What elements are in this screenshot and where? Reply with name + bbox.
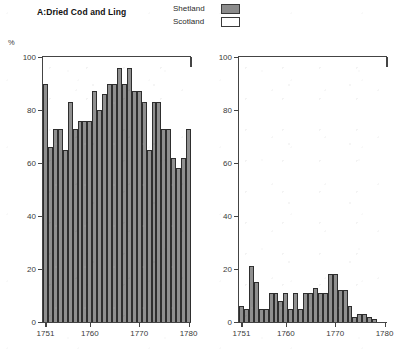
panel-b-y-tick-label: 0 <box>228 318 232 327</box>
bar <box>186 129 191 322</box>
panel-a-x-tick-label: 1760 <box>81 329 99 338</box>
panel-a-title: A:Dried Cod and Ling <box>37 7 126 17</box>
panel-a-y-tick-label: 60 <box>27 159 36 168</box>
panel-b-y-tick <box>234 57 239 58</box>
panel-a-x-tick <box>90 322 91 327</box>
panel-a-y-tick-label: 40 <box>27 212 36 221</box>
panel-b-y-tick-label: 60 <box>223 159 232 168</box>
panel-b-bars <box>239 57 387 322</box>
panel-b-x-tick-label: 1760 <box>277 329 295 338</box>
panel-a-x-tick <box>189 322 190 327</box>
panel-b-x-tick-label: 1751 <box>233 329 251 338</box>
panel-a-x-tick <box>45 322 46 327</box>
panel-a-y-tick <box>38 269 43 270</box>
panel-a-y-tick <box>38 216 43 217</box>
panel-a-y-tick <box>38 110 43 111</box>
panel-a-y-tick-label: 80 <box>27 106 36 115</box>
panel-b-y-tick <box>234 110 239 111</box>
panel-a-y-tick-label: 0 <box>32 318 36 327</box>
panel-b-y-tick-label: 80 <box>223 106 232 115</box>
panel-dried-cod-and-ling: A:Dried Cod and Ling % 020406080100 1751… <box>0 0 198 356</box>
figure-root: Shetland Scotland A:Dried Cod and Ling %… <box>0 0 400 356</box>
panel-b-y-tick-label: 20 <box>223 265 232 274</box>
panel-a-bars <box>43 57 191 322</box>
bar <box>372 319 377 322</box>
panel-a-y-tick <box>38 57 43 58</box>
panel-b-plot-area: 020406080100 1751176017701780 <box>238 56 387 323</box>
panel-b-y-tick <box>234 163 239 164</box>
panel-b-x-tick-label: 1780 <box>376 329 394 338</box>
panel-a-y-unit: % <box>8 38 15 47</box>
panel-a-y-tick-label: 100 <box>23 53 36 62</box>
panel-b-y-tick <box>234 216 239 217</box>
panel-a-x-tick-label: 1770 <box>130 329 148 338</box>
panel-b-x-tick <box>385 322 386 327</box>
panel-b-x-tick <box>335 322 336 327</box>
panel-b-x-tick <box>286 322 287 327</box>
panel-a-x-tick <box>139 322 140 327</box>
panel-b-y-tick <box>234 322 239 323</box>
panel-a-x-tick-label: 1751 <box>37 329 55 338</box>
panel-b-y-tick <box>234 269 239 270</box>
panel-b-x-tick-label: 1770 <box>326 329 344 338</box>
panel-a-x-tick-label: 1780 <box>180 329 198 338</box>
panel-b-y-tick-label: 100 <box>219 53 232 62</box>
panel-a-y-tick <box>38 163 43 164</box>
panel-a-plot-area: 020406080100 1751176017701780 <box>42 56 191 323</box>
panel-a-y-tick <box>38 322 43 323</box>
panel-b-y-tick-label: 40 <box>223 212 232 221</box>
panel-b-x-tick <box>241 322 242 327</box>
panel-a-y-tick-label: 20 <box>27 265 36 274</box>
panel-white-herring: B:White Herring % 020406080100 175117601… <box>196 0 400 356</box>
